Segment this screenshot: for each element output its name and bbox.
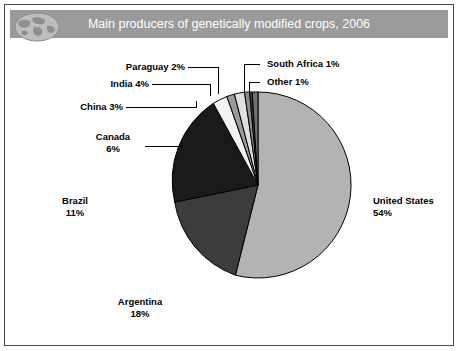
label-canada: Canada 6%	[83, 131, 143, 154]
label-canada-name: Canada	[83, 131, 143, 143]
globe-icon	[14, 12, 60, 42]
label-brazil-name: Brazil	[45, 195, 105, 207]
leader-line-china	[126, 107, 197, 108]
label-other-text: Other 1%	[267, 76, 309, 88]
label-brazil: Brazil 11%	[45, 195, 105, 218]
label-china-text: China 3%	[55, 101, 123, 113]
label-paraguay: Paraguay 2%	[113, 61, 185, 73]
label-canada-value: 6%	[83, 143, 143, 155]
leader-line-other	[249, 82, 260, 83]
leader-line-china-stem	[196, 101, 197, 108]
chart-frame: Main producers of genetically modified c…	[4, 4, 454, 346]
label-argentina-name: Argentina	[100, 296, 180, 308]
label-china: China 3%	[55, 101, 123, 113]
label-other: Other 1%	[267, 76, 309, 88]
label-south-africa-text: South Africa 1%	[267, 58, 340, 70]
label-united-states-name: United States	[373, 195, 434, 207]
page-title: Main producers of genetically modified c…	[10, 10, 448, 38]
title-bar: Main producers of genetically modified c…	[10, 10, 448, 38]
chart-page: Main producers of genetically modified c…	[0, 0, 461, 351]
label-brazil-value: 11%	[45, 207, 105, 219]
leader-line-paraguay-stem	[218, 67, 219, 94]
pie-svg	[163, 90, 353, 280]
leader-line-india-stem	[210, 84, 211, 96]
label-united-states-value: 54%	[373, 207, 434, 219]
leader-line-india	[152, 84, 211, 85]
label-paraguay-text: Paraguay 2%	[113, 61, 185, 73]
leader-line-south-africa-stem	[244, 64, 245, 92]
label-argentina: Argentina 18%	[100, 296, 180, 319]
leader-line-canada	[145, 146, 183, 147]
leader-line-south-africa	[244, 64, 260, 65]
label-united-states: United States 54%	[373, 195, 434, 218]
pie-chart	[163, 90, 353, 280]
label-india-text: India 4%	[87, 78, 149, 90]
leader-line-paraguay	[188, 67, 219, 68]
label-argentina-value: 18%	[100, 308, 180, 320]
label-india: India 4%	[87, 78, 149, 90]
label-south-africa: South Africa 1%	[267, 58, 340, 70]
leader-line-other-stem	[249, 82, 250, 94]
